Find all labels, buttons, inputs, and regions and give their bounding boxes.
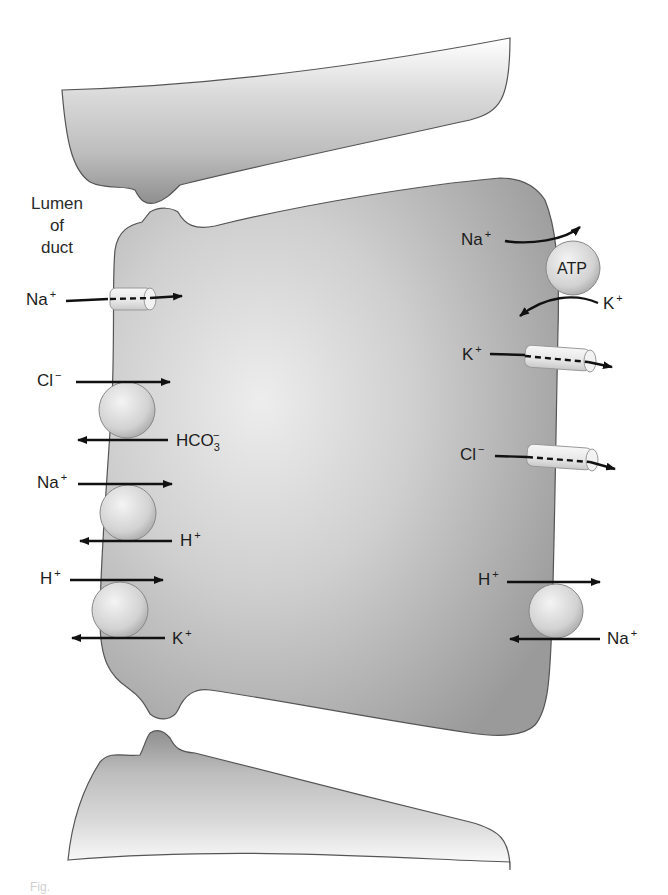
label-cl-in: Cl−	[37, 372, 62, 389]
label-h-out: H+	[180, 532, 201, 549]
lumen-of-duct-label: Lumen of duct	[22, 193, 92, 259]
lower-cell	[68, 731, 510, 870]
label-k-out: K+	[172, 630, 192, 647]
lumen-label-line1: Lumen	[22, 193, 92, 215]
label-hco3-out: HCO3−	[176, 432, 219, 449]
label-pump-na-out: Na+	[461, 231, 491, 248]
atp-label: ATP	[557, 260, 587, 278]
label-h-in: H+	[40, 570, 61, 587]
main-duct-cell	[100, 178, 558, 735]
upper-cell	[62, 38, 510, 203]
diagram-stage: Lumen of duct Na+ Cl− HCO3− Na+ H+ H+ K+…	[0, 0, 668, 895]
label-cl-channel: Cl−	[460, 446, 485, 463]
label-na-channel: Na+	[26, 291, 56, 308]
label-na-in: Na+	[37, 474, 67, 491]
label-na-in-basolateral: Na+	[607, 630, 637, 647]
label-pump-k-in: K+	[603, 295, 623, 312]
figure-caption: Fig.	[30, 880, 50, 894]
label-h-out-basolateral: H+	[478, 571, 499, 588]
lumen-label-line2: of	[22, 215, 92, 237]
label-k-channel: K+	[462, 346, 482, 363]
duct-cell-illustration	[0, 0, 668, 895]
lumen-label-line3: duct	[22, 237, 92, 259]
